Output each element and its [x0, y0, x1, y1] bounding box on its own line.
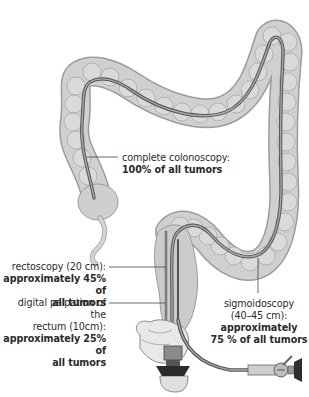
label-digital-palpation: digital palpation of the rectum (10cm): …: [0, 297, 106, 369]
rectoscopy-value-line1: approximately 45% of: [0, 273, 106, 297]
palpation-value-line2: all tumors: [0, 357, 106, 369]
label-sigmoidoscopy: sigmoidoscopy (40–45 cm): approximately …: [210, 298, 308, 346]
sigmoidoscopy-title-line1: sigmoidoscopy: [210, 298, 308, 310]
palpation-title-line2: rectum (10cm):: [0, 321, 106, 333]
palpation-title-line1: digital palpation of the: [0, 297, 106, 321]
colonoscopy-title: complete colonoscopy:: [122, 152, 262, 164]
sigmoidoscopy-title-line2: (40–45 cm):: [210, 310, 308, 322]
rectoscopy-title: rectoscopy (20 cm):: [0, 261, 106, 273]
sigmoidoscopy-value-line2: 75 % of all tumors: [210, 334, 308, 346]
colonoscopy-value: 100% of all tumors: [122, 164, 262, 176]
sigmoidoscopy-value-line1: approximately: [210, 322, 308, 334]
palpation-value-line1: approximately 25% of: [0, 333, 106, 357]
label-colonoscopy: complete colonoscopy: 100% of all tumors: [122, 152, 262, 176]
